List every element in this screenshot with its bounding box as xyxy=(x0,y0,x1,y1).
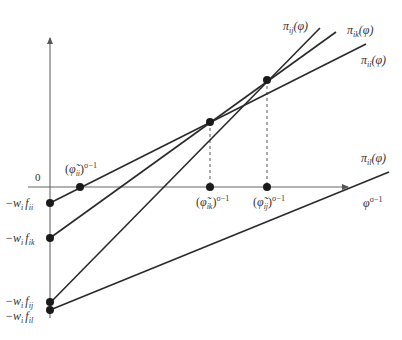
profit-diagram: 0 φσ−1 πij(φ) πik(φ) πii(φ) πil(φ) −wifi… xyxy=(0,0,402,340)
line-pi-ik xyxy=(50,32,336,238)
label-pi-ik: πik(φ) xyxy=(347,23,373,39)
label-phi-ij: (φ̃ij)σ−1 xyxy=(253,194,285,211)
point-intersect-ik xyxy=(206,118,214,126)
point-phi-ii xyxy=(76,183,84,191)
point-phi-ij xyxy=(263,183,271,191)
label-pi-ij: πij(φ) xyxy=(283,19,308,35)
label-f-ii: −wifii xyxy=(5,196,33,212)
origin-label: 0 xyxy=(35,171,41,183)
label-pi-ii: πii(φ) xyxy=(361,53,386,69)
point-f-ik xyxy=(46,234,54,242)
label-f-il: −wifil xyxy=(5,309,34,325)
point-f-il xyxy=(46,306,54,314)
label-f-ij: −wifij xyxy=(5,294,34,310)
point-f-ij xyxy=(46,298,54,306)
line-pi-il xyxy=(50,172,389,310)
label-phi-ik: (φ̃ik)σ−1 xyxy=(196,194,229,211)
point-phi-ik xyxy=(206,183,214,191)
label-pi-il: πil(φ) xyxy=(361,151,386,167)
x-axis-label: φσ−1 xyxy=(363,195,382,210)
point-intersect-ij xyxy=(263,76,271,84)
point-f-ii xyxy=(46,199,54,207)
label-f-ik: −wifik xyxy=(5,231,35,247)
label-phi-ii: (φ̃ii)σ−1 xyxy=(65,161,97,178)
